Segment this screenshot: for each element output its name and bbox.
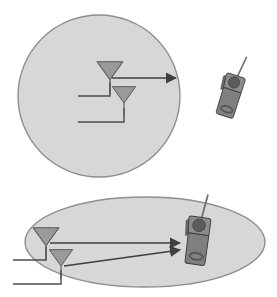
- figure-container: [0, 0, 277, 297]
- antenna-coverage-figure: [0, 0, 277, 297]
- feed-line-lower: [13, 270, 61, 284]
- bottom-panel: [13, 193, 265, 287]
- handset-outside[interactable]: [212, 52, 252, 118]
- top-panel: [18, 15, 252, 177]
